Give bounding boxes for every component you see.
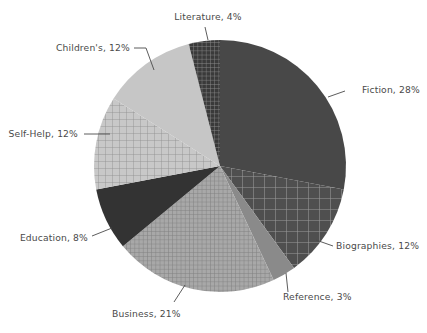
pie-chart-figure: Fiction, 28%Biographies, 12%Reference, 3…: [0, 0, 427, 333]
slice-label-biographies: Biographies, 12%: [336, 240, 419, 251]
slice-label-fiction: Fiction, 28%: [362, 84, 420, 95]
pie-slice-fiction: [220, 40, 346, 190]
pie-chart-canvas: Fiction, 28%Biographies, 12%Reference, 3…: [0, 0, 427, 333]
slice-label-literature: Literature, 4%: [174, 11, 242, 22]
leader-line-literature: [205, 27, 208, 40]
slice-label-reference: Reference, 3%: [283, 291, 352, 302]
slice-label-self-help: Self-Help, 12%: [9, 128, 79, 139]
leader-line-reference: [286, 273, 288, 292]
leader-line-business: [174, 285, 185, 302]
leader-line-education: [92, 228, 112, 236]
pie-slices-group: [94, 40, 346, 292]
leader-line-fiction: [328, 91, 345, 97]
slice-label-education: Education, 8%: [20, 232, 88, 243]
slice-label-business: Business, 21%: [112, 308, 181, 319]
slice-label-children-s: Children's, 12%: [56, 42, 130, 53]
